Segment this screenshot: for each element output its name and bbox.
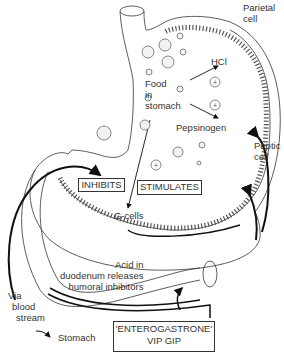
label-food: Foodinstomach: [145, 78, 181, 111]
label-pepsinogen: Pepsinogen: [176, 122, 226, 133]
label-stomach: Stomach: [58, 332, 96, 343]
peptic-arrow: [250, 195, 257, 240]
label-hcl: HCl: [211, 56, 227, 67]
enterogastrone-box: 'ENTEROGASTRONE'VIP GIP: [113, 321, 215, 352]
stomach-arrow: [36, 331, 50, 337]
esophagus-opening: [120, 6, 144, 16]
svg-text:+: +: [213, 102, 217, 109]
label-parietal-cell: Parietalcell: [243, 2, 275, 24]
duodenum-end: [203, 261, 217, 287]
humoral-arrow: [177, 288, 182, 310]
inhibits-box: INHIBITS: [78, 178, 125, 192]
label-peptic-cell: Pepticcell: [254, 140, 280, 162]
svg-text:+: +: [213, 79, 217, 86]
stimulates-box: STIMULATES: [137, 180, 202, 195]
label-via-blood: Viabloodstream: [8, 290, 45, 323]
mucosa-band: [60, 28, 266, 229]
svg-text:+: +: [154, 162, 158, 169]
stomach-outline: [30, 11, 280, 270]
label-acid-duodenum: Acid induodenum releaseshumoral inhibito…: [60, 259, 143, 292]
label-g-cells: G-cells: [114, 210, 144, 221]
